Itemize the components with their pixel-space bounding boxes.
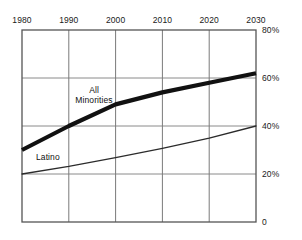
y-tick-label-80: 80% [262, 26, 279, 35]
x-tick-label-1990: 1990 [49, 16, 89, 25]
x-tick-label-2010: 2010 [142, 16, 182, 25]
x-tick-label-2030: 2030 [236, 16, 276, 25]
y-tick-label-60: 60% [262, 74, 279, 83]
chart-container: 1980 1990 2000 2010 2020 2030 80% 60% 40… [0, 0, 302, 240]
x-tick-label-1980: 1980 [2, 16, 42, 25]
line-chart-plot [0, 0, 302, 240]
x-tick-label-2000: 2000 [96, 16, 136, 25]
series-label-all-minorities: All Minorities [66, 85, 122, 105]
y-tick-label-20: 20% [262, 170, 279, 179]
x-tick-label-2020: 2020 [189, 16, 229, 25]
y-tick-label-0: 0 [262, 218, 267, 227]
y-tick-label-40: 40% [262, 122, 279, 131]
series-label-latino: Latino [36, 152, 78, 162]
